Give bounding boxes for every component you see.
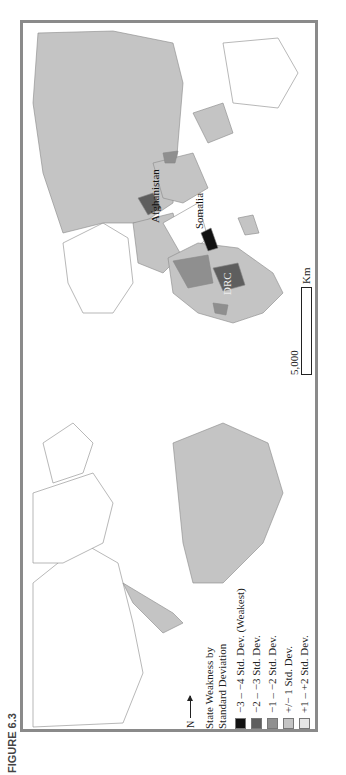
legend-label: −2 – −3 Std. Dev. bbox=[250, 635, 262, 713]
figure-caption: FIGURE 6.3 bbox=[6, 713, 18, 773]
greenland bbox=[43, 423, 93, 483]
scale-bar: 5,000 Km bbox=[288, 268, 312, 376]
legend-item: −3 – −4 Std. Dev. (Weakest) bbox=[232, 588, 248, 729]
indonesia bbox=[193, 103, 233, 143]
legend-swatch bbox=[267, 718, 278, 729]
legend-swatch bbox=[251, 718, 262, 729]
legend-item: −2 – −3 Std. Dev. bbox=[248, 588, 264, 729]
legend-label: +/− 1 Std. Dev. bbox=[282, 646, 294, 713]
label-somalia: Somalia bbox=[193, 193, 205, 229]
legend-swatch bbox=[315, 718, 319, 729]
legend-title-line1: State Weakness by bbox=[203, 588, 216, 729]
legend-title-line2: Standard Deviation bbox=[216, 588, 229, 729]
legend-label: No data bbox=[314, 678, 318, 713]
legend-swatch bbox=[283, 718, 294, 729]
legend-item: +1 – +2 Std. Dev. bbox=[296, 588, 312, 729]
north-arrow-icon bbox=[190, 696, 191, 718]
legend: State Weakness by Standard Deviation −3 … bbox=[203, 588, 318, 729]
myanmar-region bbox=[163, 151, 178, 163]
north-label: N bbox=[185, 721, 196, 728]
europe bbox=[63, 223, 133, 313]
label-afghanistan: Afghanistan bbox=[149, 169, 161, 223]
south-america bbox=[173, 423, 283, 583]
scale-value: 5,000 bbox=[288, 350, 300, 375]
legend-item: No data bbox=[312, 588, 318, 729]
label-drc: DRC bbox=[221, 272, 233, 295]
scale-unit: Km bbox=[300, 268, 312, 285]
legend-swatch bbox=[299, 718, 310, 729]
legend-label: −1 – −2 Std. Dev. bbox=[266, 635, 278, 713]
legend-label: +1 – +2 Std. Dev. bbox=[298, 635, 310, 713]
legend-swatch bbox=[235, 718, 246, 729]
legend-item: +/− 1 Std. Dev. bbox=[280, 588, 296, 729]
canada-arctic bbox=[33, 473, 113, 563]
map-frame: Afghanistan Somalia DRC 5,000 Km N State… bbox=[20, 20, 318, 732]
north-america bbox=[33, 543, 143, 727]
australia bbox=[223, 38, 298, 108]
west-africa-region bbox=[213, 303, 228, 315]
legend-label: −3 – −4 Std. Dev. (Weakest) bbox=[234, 588, 246, 713]
legend-item: −1 – −2 Std. Dev. bbox=[264, 588, 280, 729]
north-arrow: N bbox=[185, 696, 196, 728]
madagascar bbox=[238, 215, 259, 235]
scale-bar-box bbox=[301, 287, 312, 375]
